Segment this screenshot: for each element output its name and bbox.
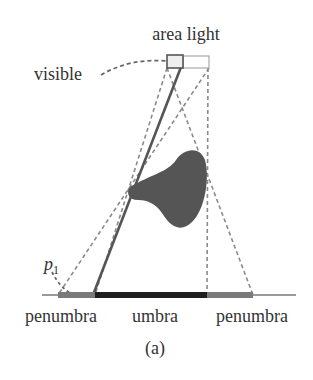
penumbra-right-label: penumbra bbox=[216, 306, 288, 326]
visible-label: visible bbox=[34, 64, 82, 84]
penumbra-left-label: penumbra bbox=[25, 306, 97, 326]
area-light-visible-part bbox=[167, 55, 183, 68]
blocker-object bbox=[128, 150, 207, 227]
ray-right-vertical bbox=[207, 68, 208, 295]
area-light-occluded-part bbox=[183, 56, 209, 68]
umbra-region bbox=[95, 292, 207, 298]
area-light-label: area light bbox=[152, 24, 219, 44]
p1-label: p1 bbox=[42, 254, 59, 277]
visible-pointer-curve bbox=[101, 61, 166, 75]
soft-shadow-diagram: area light visible p1 penumbra umbra pen… bbox=[0, 0, 313, 380]
figure-caption: (a) bbox=[145, 338, 165, 359]
umbra-label: umbra bbox=[132, 306, 178, 326]
penumbra-left-region bbox=[58, 292, 95, 298]
penumbra-right-region bbox=[207, 292, 253, 298]
